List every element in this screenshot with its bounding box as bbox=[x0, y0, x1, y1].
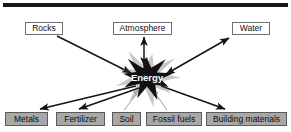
edge-rocks-to-energy bbox=[57, 36, 131, 73]
node-atmosphere[interactable]: Atmosphere bbox=[113, 22, 172, 35]
node-label-fertilizer: Fertilizer bbox=[64, 115, 97, 124]
node-fertilizer[interactable]: Fertilizer bbox=[56, 112, 105, 126]
node-building-materials[interactable]: Building materials bbox=[206, 112, 287, 126]
node-metals[interactable]: Metals bbox=[5, 112, 48, 126]
node-soil[interactable]: Soil bbox=[112, 112, 141, 126]
node-water[interactable]: Water bbox=[232, 22, 270, 35]
node-fossil-fuels[interactable]: Fossil fuels bbox=[146, 112, 202, 126]
top-divider-bar bbox=[3, 3, 288, 7]
edge-energy-to-fertilizer bbox=[79, 88, 139, 109]
energy-flow-diagram: RocksAtmosphereWaterMetalsFertilizerSoil… bbox=[0, 0, 291, 132]
node-label-rocks: Rocks bbox=[32, 24, 56, 33]
node-label-soil: Soil bbox=[119, 115, 133, 124]
node-label-fossil-fuels: Fossil fuels bbox=[153, 115, 196, 124]
node-label-atmosphere: Atmosphere bbox=[120, 24, 166, 33]
node-label-building-materials: Building materials bbox=[213, 115, 280, 124]
energy-center-label: Energy bbox=[107, 72, 187, 83]
node-label-water: Water bbox=[240, 24, 262, 33]
edge-energy-to-building-materials bbox=[161, 86, 225, 109]
node-rocks[interactable]: Rocks bbox=[25, 22, 63, 35]
edge-water-energy bbox=[166, 38, 229, 74]
node-label-metals: Metals bbox=[14, 115, 39, 124]
